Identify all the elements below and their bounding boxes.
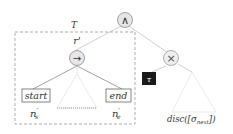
tau-label: τ [147, 75, 152, 84]
edge-xor-disc [178, 64, 192, 72]
end-label: end [110, 90, 128, 101]
xor-icon: × [166, 52, 175, 65]
subtree-root-label: r' [73, 35, 81, 46]
start-label: start [25, 90, 48, 101]
edge-root-seq [76, 26, 121, 50]
edge-xor-tau [152, 66, 166, 72]
subtree-name: T [71, 20, 78, 30]
disc-label: disc([σnext]) [167, 114, 215, 125]
edge-seq-end [77, 66, 122, 89]
start-annotation: n′s [30, 107, 38, 120]
disc-subtree-triangle [172, 72, 216, 112]
middle-subtree-triangle [57, 74, 97, 108]
and-icon: ∧ [121, 14, 129, 27]
end-annotation: n′e [112, 107, 121, 120]
arrow-right-icon: → [73, 53, 81, 64]
process-tree-diagram: ∧ T r' → × τ start end n′s n′e disc([σne… [0, 0, 233, 134]
